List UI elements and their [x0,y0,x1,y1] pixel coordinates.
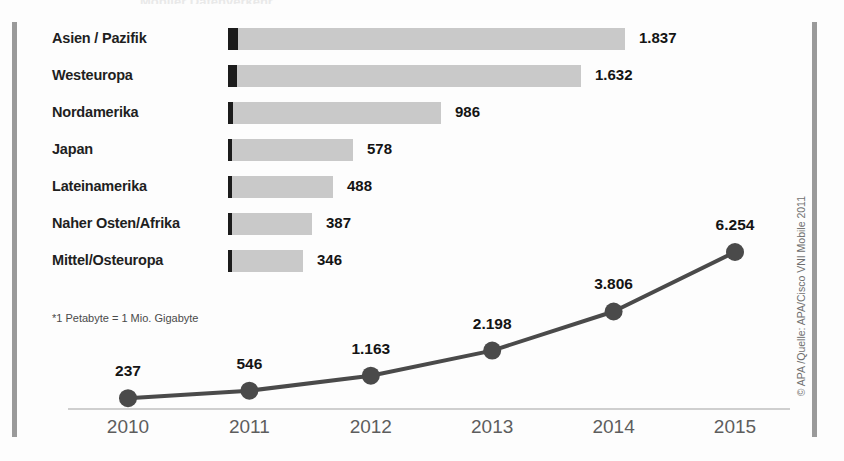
bar-row: Westeuropa1.632 [0,65,844,95]
bar-row: Japan578 [0,139,844,169]
line-value-label: 6.254 [685,216,785,234]
bar-segment-base [228,213,232,235]
bar-value-label: 986 [455,103,480,120]
bar-segment-total [228,28,625,50]
line-data-point [605,303,623,321]
bar-track [228,28,625,50]
x-axis-year-label: 2012 [326,416,416,438]
bar-category-label: Nordamerika [52,104,222,120]
bar-track [228,176,333,198]
line-data-point [483,342,501,360]
line-data-point [119,389,137,407]
line-data-point [362,367,380,385]
bar-segment-base [228,139,232,161]
bar-row: Mittel/Osteuropa346 [0,250,844,280]
line-value-label: 3.806 [564,275,664,293]
bar-segment-base [228,250,232,272]
bar-value-label: 488 [347,177,372,194]
bar-value-label: 346 [317,251,342,268]
bar-value-label: 387 [326,214,351,231]
line-value-label: 546 [199,355,299,373]
bar-track [228,139,353,161]
bar-category-label: Naher Osten/Afrika [52,215,222,231]
x-axis-year-label: 2015 [690,416,780,438]
source-credit: © APA /Quelle: APA/Cisco VNI Mobile 2011 [795,0,807,196]
bar-segment-base [228,102,233,124]
bar-segment-total [228,213,312,235]
x-axis-year-label: 2011 [204,416,294,438]
bar-category-label: Westeuropa [52,67,222,83]
bar-track [228,102,441,124]
bar-segment-base [228,65,237,87]
bar-track [228,213,312,235]
bar-value-label: 1.837 [639,29,677,46]
clipped-title: Mobiler Datenverkehr [140,0,700,4]
line-value-label: 237 [78,362,178,380]
x-axis-year-label: 2010 [83,416,173,438]
bar-segment-base [228,176,232,198]
bar-category-label: Japan [52,141,222,157]
bar-segment-base [228,28,238,50]
bar-category-label: Asien / Pazifik [52,30,222,46]
line-data-point [240,382,258,400]
line-value-label: 1.163 [321,340,421,358]
x-axis-year-label: 2014 [569,416,659,438]
bar-row: Asien / Pazifik1.837 [0,28,844,58]
bar-segment-total [228,139,353,161]
bar-category-label: Lateinamerika [52,178,222,194]
bar-value-label: 1.632 [595,66,633,83]
bar-segment-total [228,176,333,198]
line-value-label: 2.198 [442,315,542,333]
footnote: *1 Petabyte = 1 Mio. Gigabyte [52,312,198,324]
bar-track [228,65,581,87]
source-credit-text: © APA /Quelle: APA/Cisco VNI Mobile 2011 [795,196,807,396]
bar-value-label: 578 [367,140,392,157]
bar-category-label: Mittel/Osteuropa [52,252,222,268]
infographic-root: Mobiler Datenverkehr Asien / Pazifik1.83… [0,0,844,461]
bar-segment-total [228,250,303,272]
bar-chart: Asien / Pazifik1.837Westeuropa1.632Norda… [0,28,844,290]
bar-track [228,250,303,272]
x-axis-year-label: 2013 [447,416,537,438]
bar-row: Lateinamerika488 [0,176,844,206]
bar-segment-total [228,102,441,124]
bar-row: Nordamerika986 [0,102,844,132]
bar-segment-total [228,65,581,87]
